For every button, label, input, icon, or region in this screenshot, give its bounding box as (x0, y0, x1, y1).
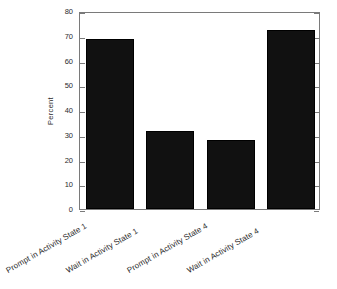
y-tick-mark (80, 211, 85, 212)
y-tick-label: 40 (65, 107, 73, 115)
y-tick-mark-right (314, 211, 319, 212)
bar (146, 131, 194, 209)
y-tick-label: 0 (69, 206, 73, 214)
bar (207, 140, 255, 209)
bar (86, 39, 134, 209)
y-tick-label: 10 (65, 182, 73, 190)
y-tick-label: 30 (65, 132, 73, 140)
y-tick-label: 70 (65, 33, 73, 41)
y-tick-label: 60 (65, 58, 73, 66)
bar (267, 30, 315, 209)
y-axis-title: Percent (46, 97, 55, 125)
plot-area (79, 12, 320, 210)
bar-chart-figure: Percent 01020304050607080 Prompt in Acti… (0, 0, 337, 289)
y-tick-label: 20 (65, 157, 73, 165)
bars-layer (80, 13, 319, 209)
y-tick-label: 50 (65, 83, 73, 91)
y-tick-label: 80 (65, 8, 73, 16)
